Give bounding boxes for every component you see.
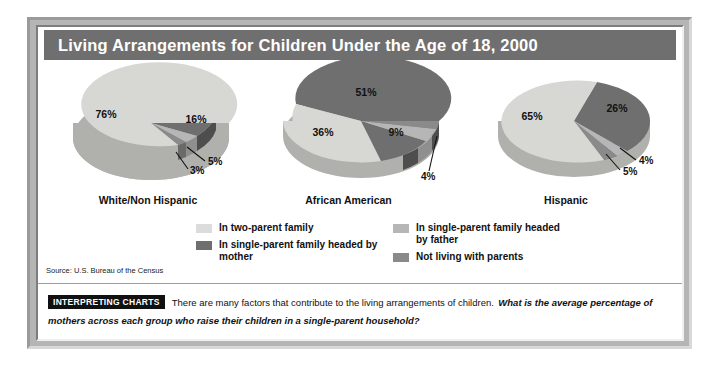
slice-value-0-3: 3% (190, 165, 205, 176)
figure-page: Living Arrangements for Children Under t… (0, 0, 715, 365)
slice-value-0-0: 76% (95, 108, 117, 120)
legend-label-two-parent: In two-parent family (219, 222, 313, 234)
pie-svg-2: 65% 26% 4% 5% (484, 68, 684, 198)
footer-text: There are many factors that contribute t… (172, 297, 494, 308)
legend: In two-parent family In single-parent fa… (190, 222, 570, 274)
slice-value-2-3: 5% (623, 166, 638, 177)
slice-value-1-3: 4% (421, 171, 436, 182)
slice-value-1-0: 51% (355, 86, 377, 98)
slice-value-2-2: 4% (639, 155, 654, 166)
pie-chart-african-american: 51% 36% 9% 4% African American (266, 68, 471, 198)
legend-label-mother: In single-parent family headed by mother (219, 239, 381, 263)
interpreting-charts-tag: INTERPRETING CHARTS (48, 295, 165, 309)
page-title: Living Arrangements for Children Under t… (44, 36, 538, 55)
source-note: Source: U.S. Bureau of the Census (46, 266, 163, 275)
legend-item-father: In single-parent family headed by father (393, 222, 573, 246)
legend-column-right: In single-parent family headed by father… (393, 222, 573, 268)
legend-item-two-parent: In two-parent family (196, 222, 381, 234)
legend-swatch-father (393, 224, 409, 233)
pie-caption-1: African American (246, 194, 451, 206)
charts-container: 76% 16% 5% 3% White/Non Hispanic (44, 68, 676, 218)
legend-swatch-mother (196, 241, 212, 250)
figure-title-bar: Living Arrangements for Children Under t… (44, 30, 676, 60)
slice-value-2-1: 26% (606, 102, 628, 114)
legend-swatch-no-parents (393, 253, 409, 262)
legend-column-left: In two-parent family In single-parent fa… (196, 222, 381, 268)
pie-chart-white-non-hispanic: 76% 16% 5% 3% White/Non Hispanic (56, 68, 256, 198)
legend-item-mother: In single-parent family headed by mother (196, 239, 381, 263)
slice-value-0-1: 16% (185, 113, 207, 125)
pie-svg-0: 76% 16% 5% 3% (56, 68, 256, 198)
pie-chart-hispanic: 65% 26% 4% 5% Hispanic (484, 68, 684, 198)
legend-item-no-parents: Not living with parents (393, 251, 573, 263)
slice-value-1-1: 36% (312, 126, 334, 138)
pie-svg-1: 51% 36% 9% 4% (266, 68, 471, 198)
legend-label-no-parents: Not living with parents (416, 251, 523, 263)
legend-swatch-two-parent (196, 224, 212, 233)
legend-label-father: In single-parent family headed by father (416, 222, 573, 246)
slice-value-0-2: 5% (208, 156, 223, 167)
footer-divider (38, 283, 682, 284)
slice-value-1-2: 9% (388, 126, 404, 138)
pie-caption-2: Hispanic (466, 194, 666, 206)
slice-value-2-0: 65% (521, 110, 543, 122)
interpreting-charts-footer: INTERPRETING CHARTSThere are many factor… (48, 292, 668, 328)
pie-caption-0: White/Non Hispanic (48, 194, 248, 206)
